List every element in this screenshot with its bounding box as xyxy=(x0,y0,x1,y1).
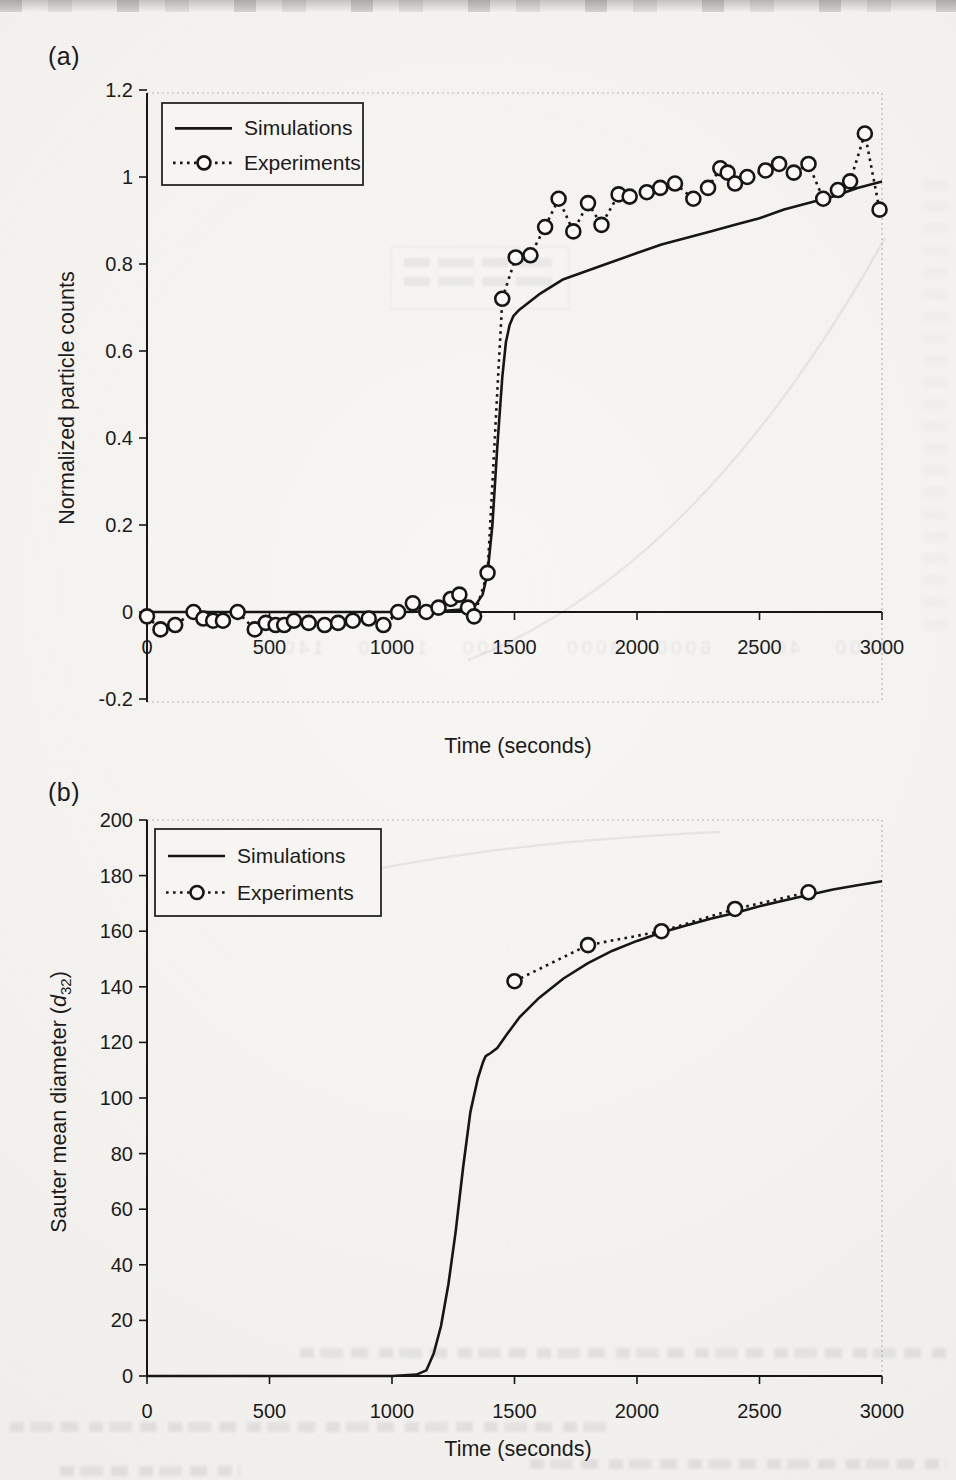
experiments-marker xyxy=(668,177,682,191)
chart-a-normalized-particle-counts: 1.210.80.60.40.20-0.20500100015002000250… xyxy=(0,0,956,780)
y-tick-label: 0.2 xyxy=(105,514,133,536)
x-tick-label: 500 xyxy=(253,1400,286,1422)
experiments-marker xyxy=(331,616,345,630)
experiments-marker xyxy=(362,612,376,626)
experiments-marker xyxy=(508,974,522,988)
experiments-marker xyxy=(346,614,360,628)
experiments-marker xyxy=(594,218,608,232)
experiments-marker xyxy=(495,292,509,306)
experiments-marker xyxy=(816,192,830,206)
y-tick-label: 0.4 xyxy=(105,427,133,449)
y-axis-title: Sauter mean diameter (d32) xyxy=(47,971,74,1233)
experiments-marker xyxy=(391,605,405,619)
legend-circle-marker xyxy=(191,886,204,899)
x-tick-label: 2000 xyxy=(615,636,660,658)
experiments-marker xyxy=(623,190,637,204)
experiments-marker xyxy=(231,605,245,619)
experiments-marker xyxy=(740,170,754,184)
y-tick-label: 0 xyxy=(122,601,133,623)
experiments-marker xyxy=(523,248,537,262)
experiments-marker xyxy=(376,618,390,632)
y-tick-label: 200 xyxy=(100,809,133,831)
experiments-marker xyxy=(873,203,887,217)
y-tick-label: 100 xyxy=(100,1087,133,1109)
x-tick-label: 2500 xyxy=(737,636,782,658)
experiments-marker xyxy=(452,588,466,602)
y-tick-label: 180 xyxy=(100,865,133,887)
experiments-marker xyxy=(216,614,230,628)
experiments-marker xyxy=(538,220,552,234)
y-tick-label: 120 xyxy=(100,1031,133,1053)
x-tick-label: 3000 xyxy=(860,636,905,658)
chart-b-sauter-mean-diameter: 2001801601401201008060402000500100015002… xyxy=(0,780,956,1480)
y-tick-label: 80 xyxy=(111,1143,133,1165)
experiments-marker xyxy=(772,157,786,171)
x-tick-label: 1000 xyxy=(370,636,415,658)
experiments-marker xyxy=(787,166,801,180)
y-tick-label: 160 xyxy=(100,920,133,942)
experiments-marker xyxy=(802,157,816,171)
y-tick-label: 60 xyxy=(111,1198,133,1220)
experiments-marker xyxy=(858,127,872,141)
experiments-marker xyxy=(843,174,857,188)
experiments-marker xyxy=(640,185,654,199)
legend-circle-marker xyxy=(198,156,211,169)
scanned-figure-page: (a) (b) 1.210.80.60.40.20-0.205001000150… xyxy=(0,0,956,1480)
legend-label: Simulations xyxy=(244,116,353,139)
experiments-marker xyxy=(140,609,154,623)
experiments-marker xyxy=(655,924,669,938)
experiments-marker xyxy=(481,566,495,580)
experiments-marker xyxy=(686,192,700,206)
legend-label: Experiments xyxy=(237,881,354,904)
experiments-marker xyxy=(287,614,301,628)
y-tick-label: 1 xyxy=(122,166,133,188)
x-axis-title: Time (seconds) xyxy=(444,1437,591,1461)
experiments-dotted-line xyxy=(147,134,880,630)
experiments-marker xyxy=(566,224,580,238)
experiments-marker xyxy=(467,609,481,623)
legend-label: Simulations xyxy=(237,844,346,867)
experiments-marker xyxy=(701,181,715,195)
y-tick-label: 40 xyxy=(111,1254,133,1276)
experiments-marker xyxy=(759,163,773,177)
x-tick-label: 0 xyxy=(141,1400,152,1422)
experiments-marker xyxy=(653,181,667,195)
experiments-marker xyxy=(728,902,742,916)
experiments-marker xyxy=(581,196,595,210)
experiments-marker xyxy=(802,885,816,899)
x-tick-label: 500 xyxy=(253,636,286,658)
y-axis-title: Normalized particle counts xyxy=(55,271,79,524)
experiments-marker xyxy=(406,596,420,610)
experiments-marker xyxy=(153,622,167,636)
x-tick-label: 1500 xyxy=(492,636,537,658)
experiments-marker xyxy=(581,938,595,952)
y-tick-label: 0 xyxy=(122,1365,133,1387)
y-tick-label: -0.2 xyxy=(99,688,133,710)
x-tick-label: 2500 xyxy=(737,1400,782,1422)
experiments-marker xyxy=(318,618,332,632)
simulations-line xyxy=(147,181,882,612)
y-tick-label: 0.8 xyxy=(105,253,133,275)
x-tick-label: 1000 xyxy=(370,1400,415,1422)
x-tick-label: 1500 xyxy=(492,1400,537,1422)
legend-label: Experiments xyxy=(244,151,361,174)
experiments-marker xyxy=(509,250,523,264)
y-tick-label: 0.6 xyxy=(105,340,133,362)
y-tick-label: 1.2 xyxy=(105,79,133,101)
x-tick-label: 2000 xyxy=(615,1400,660,1422)
experiments-marker xyxy=(302,616,316,630)
experiments-marker xyxy=(168,618,182,632)
simulations-line xyxy=(147,881,882,1376)
y-tick-label: 20 xyxy=(111,1309,133,1331)
x-axis-title: Time (seconds) xyxy=(444,734,591,758)
experiments-marker xyxy=(552,192,566,206)
y-tick-label: 140 xyxy=(100,976,133,998)
x-tick-label: 3000 xyxy=(860,1400,905,1422)
x-tick-label: 0 xyxy=(141,636,152,658)
